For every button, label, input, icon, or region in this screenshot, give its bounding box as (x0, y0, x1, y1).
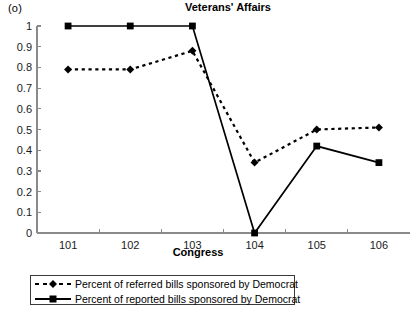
chart-legend: Percent of referred bills sponsored by D… (30, 275, 295, 305)
y-tick-label: 0.4 (17, 144, 32, 156)
data-point-reported (313, 143, 320, 150)
y-tick-label: 0.3 (17, 165, 32, 177)
x-axis-title: Congress (36, 246, 420, 258)
y-tick-label: 1 (26, 20, 32, 32)
plot-area: 00.10.20.30.40.50.60.70.80.91 1011021031… (0, 0, 420, 250)
data-point-referred (251, 159, 259, 167)
data-point-reported (127, 23, 134, 30)
y-tick-label: 0.1 (17, 206, 32, 218)
data-point-referred (64, 65, 72, 73)
data-point-reported (251, 230, 258, 237)
data-point-reported (65, 23, 72, 30)
y-tick-label: 0.8 (17, 61, 32, 73)
data-point-referred (313, 126, 321, 134)
legend-key-referred (31, 277, 75, 291)
y-axis-tick-labels: 00.10.20.30.40.50.60.70.80.91 (17, 20, 32, 239)
y-tick-label: 0.2 (17, 186, 32, 198)
legend-item-reported: Percent of reported bills sponsored by D… (31, 292, 294, 306)
y-tick-label: 0.7 (17, 82, 32, 94)
legend-label-referred: Percent of referred bills sponsored by D… (75, 277, 298, 291)
data-point-referred (126, 65, 134, 73)
chart-figure: (o) Veterans' Affairs 00.10.20.30.40.50.… (0, 0, 420, 314)
y-tick-label: 0.6 (17, 103, 32, 115)
series-line-referred (68, 51, 379, 163)
data-point-reported (376, 159, 383, 166)
data-point-reported (189, 23, 196, 30)
legend-label-reported: Percent of reported bills sponsored by D… (75, 292, 300, 306)
series-layer (64, 23, 383, 237)
legend-key-reported (31, 292, 75, 306)
data-point-referred (375, 123, 383, 131)
y-tick-label: 0.9 (17, 41, 32, 53)
y-tick-label: 0.5 (17, 124, 32, 136)
y-tick-label: 0 (26, 227, 32, 239)
legend-item-referred: Percent of referred bills sponsored by D… (31, 277, 294, 291)
